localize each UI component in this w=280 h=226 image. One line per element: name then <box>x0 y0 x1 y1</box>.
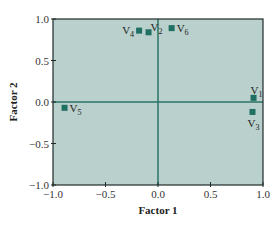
square-marker-icon <box>169 25 175 31</box>
square-marker-icon <box>62 105 68 111</box>
y-axis: 1.00.50.0−0.5−1.0 <box>29 13 56 191</box>
y-tick-label: 1.0 <box>35 13 49 25</box>
x-tick-label: 0.5 <box>204 188 218 200</box>
y-tick-label: −1.0 <box>29 179 49 191</box>
x-tick-label: −0.5 <box>96 188 116 200</box>
x-tick-label: 0.0 <box>151 188 165 200</box>
y-tick-label: 0.0 <box>35 96 49 108</box>
x-tick-label: 1.0 <box>256 188 270 200</box>
y-tick-label: −0.5 <box>29 138 49 150</box>
square-marker-icon <box>136 28 142 34</box>
y-axis-title: Factor 2 <box>7 82 19 122</box>
square-marker-icon <box>250 109 256 115</box>
factor-loading-scatter-chart: −1.0−0.50.00.51.0 1.00.50.0−0.5−1.0 V1V2… <box>0 0 280 226</box>
y-tick-label: 0.5 <box>35 55 49 67</box>
x-axis-title: Factor 1 <box>138 204 177 216</box>
